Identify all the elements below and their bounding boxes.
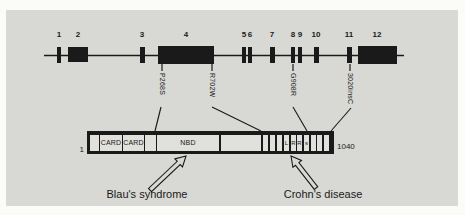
domain-nbd: NBD xyxy=(157,135,219,151)
lrr-box-1 xyxy=(263,135,268,151)
exon-3-label: 3 xyxy=(135,30,149,39)
protein-start-residue: 1 xyxy=(72,145,84,154)
lrr-box-7: s xyxy=(304,135,309,151)
domain-card-2: CARD xyxy=(123,135,144,151)
exon-2-label: 2 xyxy=(71,30,85,39)
protein-bar: CARD CARD NBD L R R s xyxy=(87,131,334,154)
domain-spacer-1 xyxy=(90,135,99,151)
exon-7-label: 7 xyxy=(265,30,279,39)
lrr-box-4: L xyxy=(284,135,289,151)
lrr-box-5: R xyxy=(291,135,296,151)
exon-12 xyxy=(358,46,397,64)
exon-12-label: 12 xyxy=(370,30,384,39)
lrr-box-8 xyxy=(311,135,316,151)
crohns-disease-label: Crohn's disease xyxy=(273,188,373,200)
exon-11 xyxy=(347,47,352,63)
blau-syndrome-label: Blau's syndrome xyxy=(97,188,197,200)
lrr-box-3 xyxy=(277,135,282,151)
mutation-label-r702w: R702W xyxy=(208,73,216,97)
exon-4 xyxy=(158,46,214,64)
exon-6-label: 6 xyxy=(243,30,257,39)
figure-page: 1 2 3 4 5 6 7 8 9 10 11 12 P268S R702W G… xyxy=(0,0,465,215)
exon-10-label: 10 xyxy=(309,30,323,39)
lrr-box-9 xyxy=(317,135,322,151)
exon-4-label: 4 xyxy=(179,30,193,39)
exon-8 xyxy=(291,47,295,63)
mutation-label-3020insc: 3020insC xyxy=(346,73,354,104)
lrr-box-2 xyxy=(270,135,275,151)
exon-7 xyxy=(270,47,275,63)
mutation-label-g908r: G908R xyxy=(289,73,297,96)
lrr-box-6: R xyxy=(297,135,302,151)
protein-end-residue: 1040 xyxy=(337,142,355,151)
exon-1 xyxy=(57,47,61,63)
exon-3 xyxy=(140,47,145,63)
exon-9-label: 9 xyxy=(293,30,307,39)
mutation-label-p268s: P268S xyxy=(158,73,166,95)
domain-card-1: CARD xyxy=(100,135,122,151)
figure-panel xyxy=(6,10,458,206)
domain-spacer-2 xyxy=(145,135,156,151)
exon-1-label: 1 xyxy=(52,30,66,39)
exon-5 xyxy=(242,47,246,63)
domain-spacer-3 xyxy=(221,135,261,151)
exon-2 xyxy=(68,47,88,62)
exon-6 xyxy=(248,47,252,63)
exon-9 xyxy=(298,47,302,63)
lrr-box-10 xyxy=(324,135,329,151)
exon-11-label: 11 xyxy=(342,30,356,39)
exon-10 xyxy=(314,47,319,63)
